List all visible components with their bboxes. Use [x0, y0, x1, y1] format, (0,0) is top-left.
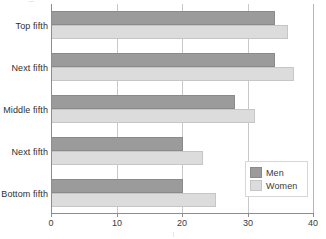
- legend-item-men: Men: [250, 167, 284, 178]
- x-tick-label-30: 30: [243, 218, 253, 228]
- scan-artifact-top: [29, 1, 34, 2]
- category-label-top-fifth: Top fifth: [0, 21, 48, 31]
- bar-men-top-fifth: [52, 11, 275, 25]
- category-label-bottom-fifth: Bottom fifth: [0, 189, 48, 199]
- x-tick-label-0: 0: [48, 218, 53, 228]
- bar-women-bottom-fifth: [52, 193, 216, 207]
- scan-artifact-bottom: [173, 232, 174, 237]
- x-tick-label-10: 10: [112, 218, 122, 228]
- tickmark-0: [51, 213, 52, 217]
- tickmark-20: [182, 213, 183, 217]
- tickmark-40: [313, 213, 314, 217]
- chart-legend: Men Women: [245, 161, 308, 197]
- plot-right-edge: [313, 4, 314, 214]
- y-axis-line: [51, 4, 52, 214]
- legend-swatch-women-icon: [250, 180, 262, 191]
- bar-men-next-fifth-2: [52, 53, 275, 67]
- bar-women-next-fifth-2: [52, 67, 294, 81]
- bar-chart: Top fifth Next fifth Middle fifth Next f…: [0, 0, 326, 239]
- tickmark-30: [248, 213, 249, 217]
- legend-item-women: Women: [250, 180, 297, 191]
- x-tick-label-40: 40: [308, 218, 318, 228]
- tickmark-10: [117, 213, 118, 217]
- bar-women-next-fifth-4: [52, 151, 203, 165]
- legend-swatch-men-icon: [250, 167, 262, 178]
- legend-label-men: Men: [266, 168, 284, 178]
- legend-label-women: Women: [266, 181, 297, 191]
- bar-women-middle-fifth: [52, 109, 255, 123]
- x-tick-label-20: 20: [177, 218, 187, 228]
- category-label-middle-fifth: Middle fifth: [0, 105, 48, 115]
- bar-men-next-fifth-4: [52, 137, 183, 151]
- category-label-next-fifth-2: Next fifth: [0, 63, 48, 73]
- category-label-next-fifth-4: Next fifth: [0, 147, 48, 157]
- bar-women-top-fifth: [52, 25, 288, 39]
- bar-men-bottom-fifth: [52, 179, 183, 193]
- bar-men-middle-fifth: [52, 95, 235, 109]
